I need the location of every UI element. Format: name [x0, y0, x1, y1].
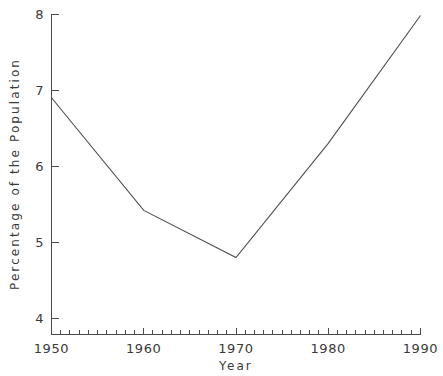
y-tick-label-6: 6 [35, 159, 44, 174]
x-tick-label-1990: 1990 [403, 341, 438, 356]
line-chart: 8 7 6 5 4 1950 1960 1970 1980 1990 Year … [0, 0, 443, 376]
y-tick-label-8: 8 [35, 7, 44, 22]
data-series-line [52, 16, 421, 258]
y-axis-major-ticks [52, 15, 59, 319]
y-tick-label-4: 4 [35, 311, 44, 326]
x-tick-label-1960: 1960 [126, 341, 161, 356]
y-axis-title: Percentage of the Population [8, 58, 22, 290]
chart-page: 8 7 6 5 4 1950 1960 1970 1980 1990 Year … [0, 0, 443, 376]
x-axis-title: Year [218, 359, 253, 373]
x-tick-label-1970: 1970 [218, 341, 253, 356]
x-tick-label-1950: 1950 [34, 341, 69, 356]
y-tick-label-7: 7 [35, 83, 44, 98]
x-tick-label-1980: 1980 [310, 341, 345, 356]
y-tick-label-5: 5 [35, 235, 44, 250]
